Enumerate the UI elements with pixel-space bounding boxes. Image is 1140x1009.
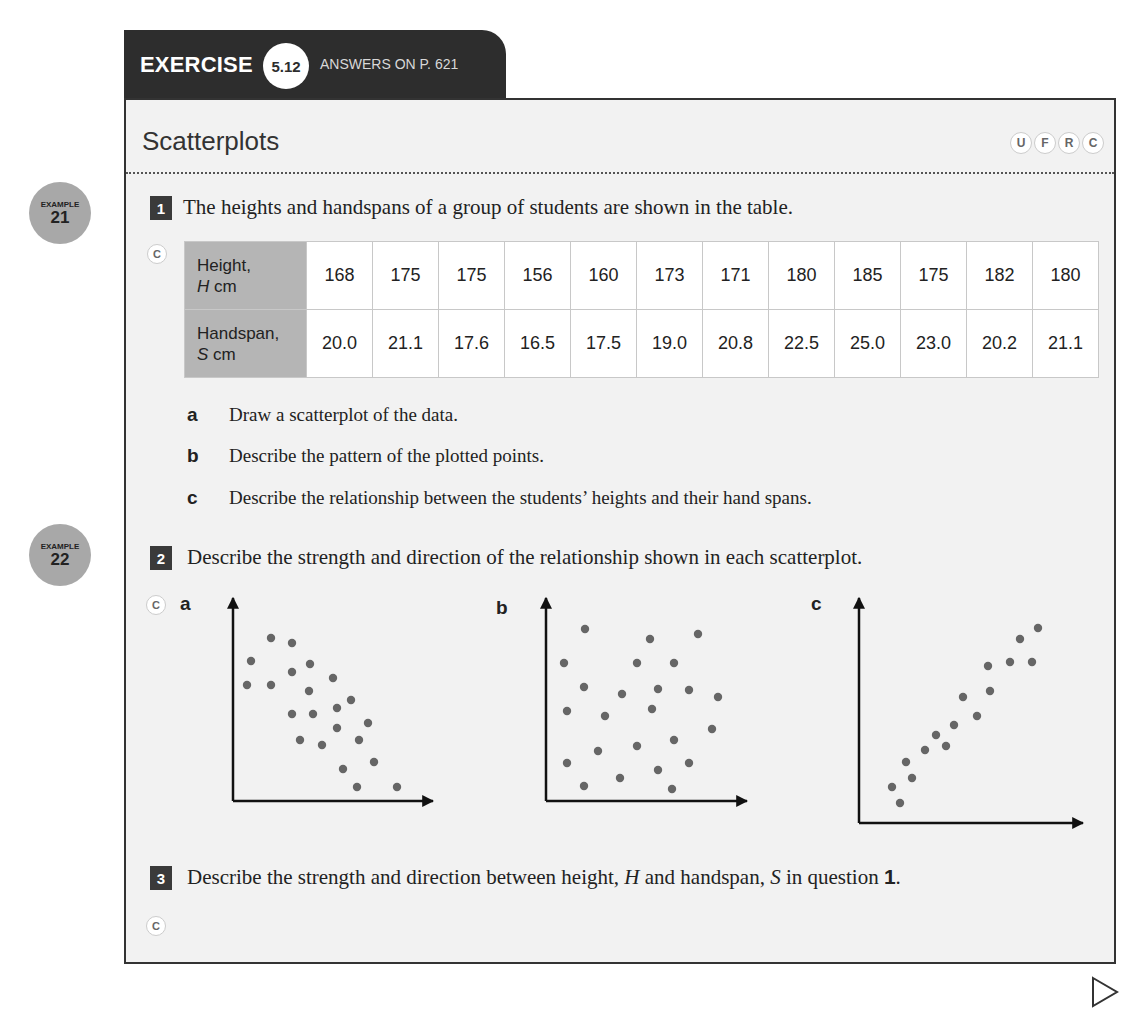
data-point [708, 725, 716, 733]
data-point [355, 736, 363, 744]
data-point [364, 719, 372, 727]
data-point [984, 662, 992, 670]
data-point [714, 693, 722, 701]
scatterplots [0, 0, 1140, 1009]
data-point [1016, 635, 1024, 643]
data-point [333, 724, 341, 732]
data-point [950, 721, 958, 729]
data-point [339, 765, 347, 773]
data-point [288, 668, 296, 676]
data-point [618, 690, 626, 698]
data-point [1006, 658, 1014, 666]
data-point [908, 774, 916, 782]
data-point [563, 759, 571, 767]
question-number-3: 3 [150, 866, 172, 890]
data-point [247, 657, 255, 665]
data-point [902, 758, 910, 766]
data-point [633, 742, 641, 750]
data-point [288, 710, 296, 718]
data-point [670, 659, 678, 667]
data-point [305, 687, 313, 695]
data-point [580, 683, 588, 691]
data-point [670, 736, 678, 744]
data-point [986, 687, 994, 695]
data-point [896, 799, 904, 807]
data-point [353, 783, 361, 791]
data-point [654, 766, 662, 774]
data-point [594, 747, 602, 755]
data-point [296, 736, 304, 744]
data-point [288, 639, 296, 647]
data-point [267, 681, 275, 689]
data-point [318, 741, 326, 749]
data-point [309, 710, 317, 718]
data-point [370, 758, 378, 766]
communication-badge: C [146, 916, 166, 936]
data-point [601, 712, 609, 720]
data-point [1034, 624, 1042, 632]
data-point [393, 783, 401, 791]
data-point [694, 630, 702, 638]
data-point [347, 696, 355, 704]
data-point [654, 685, 662, 693]
data-point [942, 742, 950, 750]
data-point [921, 746, 929, 754]
data-point [580, 782, 588, 790]
data-point [267, 634, 275, 642]
scatterplot-a-axes [233, 598, 433, 801]
data-point [563, 707, 571, 715]
data-point [959, 693, 967, 701]
data-point [648, 705, 656, 713]
data-point [646, 635, 654, 643]
scatterplot-a-points [243, 634, 401, 791]
next-page-icon[interactable] [1090, 975, 1120, 1009]
data-point [932, 731, 940, 739]
data-point [306, 660, 314, 668]
data-point [685, 686, 693, 694]
data-point [329, 674, 337, 682]
data-point [581, 625, 589, 633]
data-point [1028, 658, 1036, 666]
data-point [668, 785, 676, 793]
data-point [333, 704, 341, 712]
data-point [633, 659, 641, 667]
data-point [973, 712, 981, 720]
scatterplot-c-points [888, 624, 1042, 807]
data-point [560, 659, 568, 667]
data-point [888, 783, 896, 791]
data-point [685, 759, 693, 767]
question-3-text: Describe the strength and direction betw… [187, 865, 901, 890]
data-point [616, 774, 624, 782]
data-point [243, 681, 251, 689]
scatterplot-b-points [560, 625, 722, 793]
